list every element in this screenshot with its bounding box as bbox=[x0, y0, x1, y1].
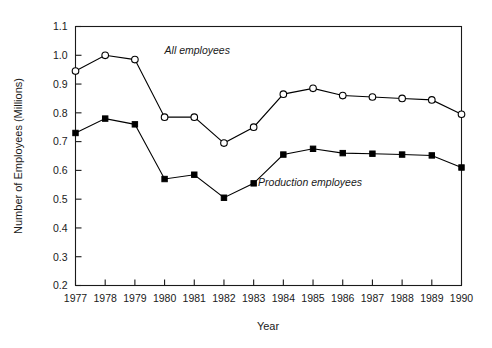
data-point-marker bbox=[132, 122, 137, 127]
line-chart: 0.20.30.40.50.60.70.80.91.01.1 197719781… bbox=[0, 0, 492, 348]
y-tick-label: 0.2 bbox=[53, 279, 68, 291]
y-tick-label: 0.3 bbox=[53, 251, 68, 263]
y-tick-label: 0.9 bbox=[53, 78, 68, 90]
y-tick-label: 0.5 bbox=[53, 193, 68, 205]
data-point-marker bbox=[281, 152, 286, 157]
data-point-marker bbox=[399, 152, 404, 157]
data-point-marker bbox=[250, 124, 257, 131]
x-tick-label: 1981 bbox=[183, 292, 207, 304]
x-axis-ticks bbox=[76, 280, 462, 286]
data-point-marker bbox=[162, 176, 167, 181]
x-tick-label: 1986 bbox=[331, 292, 355, 304]
chart-figure: 0.20.30.40.50.60.70.80.91.01.1 197719781… bbox=[0, 0, 492, 348]
y-tick-label: 1.0 bbox=[53, 49, 68, 61]
data-point-marker bbox=[429, 153, 434, 158]
x-axis-title: Year bbox=[257, 320, 280, 332]
series-annotation: Production employees bbox=[258, 176, 363, 188]
x-tick-label: 1989 bbox=[420, 292, 444, 304]
data-point-marker bbox=[370, 151, 375, 156]
data-point-marker bbox=[221, 140, 228, 147]
data-point-marker bbox=[310, 146, 315, 151]
x-tick-label: 1988 bbox=[390, 292, 414, 304]
y-axis-tick-labels: 0.20.30.40.50.60.70.80.91.01.1 bbox=[53, 20, 68, 291]
x-tick-label: 1978 bbox=[94, 292, 118, 304]
data-point-marker bbox=[102, 52, 109, 59]
data-point-marker bbox=[399, 95, 406, 102]
x-tick-label: 1977 bbox=[64, 292, 88, 304]
x-tick-label: 1990 bbox=[450, 292, 474, 304]
x-axis-tick-labels: 1977197819791980198119821983198419851986… bbox=[64, 292, 474, 304]
series-annotation: All employees bbox=[164, 44, 231, 56]
data-point-marker bbox=[192, 172, 197, 177]
x-tick-label: 1987 bbox=[361, 292, 385, 304]
y-axis-title: Number of Employees (Millions) bbox=[12, 78, 24, 234]
x-tick-label: 1985 bbox=[301, 292, 325, 304]
data-point-marker bbox=[102, 116, 107, 121]
data-point-marker bbox=[280, 91, 287, 98]
data-point-marker bbox=[369, 94, 376, 101]
y-tick-label: 0.7 bbox=[53, 135, 68, 147]
data-point-marker bbox=[132, 56, 139, 63]
x-tick-label: 1984 bbox=[272, 292, 296, 304]
data-point-marker bbox=[459, 165, 464, 170]
y-tick-label: 0.8 bbox=[53, 107, 68, 119]
data-point-marker bbox=[73, 130, 78, 135]
data-point-marker bbox=[339, 92, 346, 99]
y-axis-ticks bbox=[76, 27, 82, 286]
data-point-marker bbox=[340, 150, 345, 155]
data-point-marker bbox=[429, 97, 436, 104]
data-point-marker bbox=[161, 114, 168, 121]
y-tick-label: 0.4 bbox=[53, 222, 68, 234]
x-tick-label: 1983 bbox=[242, 292, 266, 304]
x-tick-label: 1982 bbox=[212, 292, 236, 304]
data-point-marker bbox=[458, 111, 465, 118]
data-point-marker bbox=[251, 181, 256, 186]
y-tick-label: 1.1 bbox=[53, 20, 68, 32]
data-point-marker bbox=[191, 114, 198, 121]
x-tick-label: 1980 bbox=[153, 292, 177, 304]
data-point-marker bbox=[221, 195, 226, 200]
data-point-marker bbox=[72, 68, 79, 75]
y-tick-label: 0.6 bbox=[53, 164, 68, 176]
x-tick-label: 1979 bbox=[123, 292, 147, 304]
data-point-marker bbox=[310, 85, 317, 92]
